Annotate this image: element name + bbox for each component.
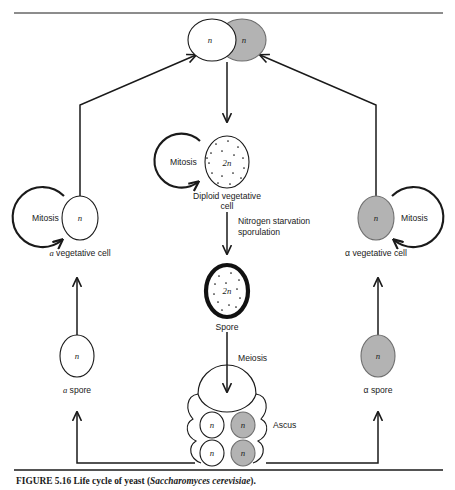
- arrow-ascus-to-a-spore: [77, 412, 195, 463]
- a-spore-caption: a spore: [63, 385, 91, 395]
- a-spore-ploidy-label: n: [75, 351, 80, 361]
- zygote-a-ploidy-label: n: [208, 35, 213, 45]
- figure-caption-species: Saccharomyces cerevisiae: [150, 476, 250, 486]
- node-ascus: n n n n Ascus: [187, 365, 296, 466]
- ascus-caption: Ascus: [273, 420, 296, 430]
- alpha-vegetative-cell-caption: α vegetative cell: [345, 248, 407, 258]
- node-diploid-vegetative-cell: 2n Diploid vegetative cell: [193, 136, 261, 211]
- zygote-alpha-ploidy-label: n: [242, 35, 247, 45]
- a-vegetative-cell-ploidy-label: n: [78, 213, 83, 223]
- diploid-cell-ploidy-label: 2n: [223, 158, 232, 168]
- a-spore-caption-rest: spore: [67, 385, 91, 395]
- diploid-cell-caption-line2: cell: [221, 201, 234, 211]
- a-vegetative-cell-caption-rest: vegetative cell: [54, 248, 111, 258]
- node-a-vegetative-cell: n a vegetative cell: [49, 196, 110, 258]
- alpha-spore-ploidy-label: n: [376, 351, 381, 361]
- diploid-cell-caption-line1: Diploid vegetative: [193, 191, 261, 201]
- figure-caption-number: FIGURE 5.16: [16, 476, 72, 486]
- node-a-spore: n a spore: [60, 335, 94, 395]
- ascus-spore-a-lower-label: n: [210, 448, 215, 458]
- arrow-a-cell-to-zygote: [80, 55, 196, 198]
- arrow-alpha-cell-to-zygote: [260, 55, 376, 198]
- node-alpha-spore: n α spore: [361, 335, 395, 395]
- yeast-life-cycle-diagram: n n 2n: [0, 0, 455, 490]
- mitosis-label-left: Mitosis: [32, 213, 59, 223]
- mitosis-label-right: Mitosis: [401, 213, 428, 223]
- ascus-spore-alpha-upper-label: n: [241, 420, 246, 430]
- figure-caption-tail: ).: [250, 476, 255, 487]
- alpha-vegetative-cell-caption-rest: vegetative cell: [350, 248, 407, 258]
- spore-caption: Spore: [216, 322, 239, 332]
- alpha-vegetative-cell-ploidy-label: n: [374, 213, 379, 223]
- node-zygote: n n: [188, 19, 266, 61]
- figure-caption-lead-text: Life cycle of yeast (: [74, 476, 151, 487]
- alpha-spore-caption-rest: spore: [369, 385, 393, 395]
- figure-page: n n 2n: [0, 0, 455, 490]
- nitrogen-starvation-label-line1: Nitrogen starvation: [238, 216, 310, 226]
- ascus-spore-a-upper-label: n: [210, 420, 215, 430]
- figure-caption: FIGURE 5.16 Life cycle of yeast (Sacchar…: [16, 476, 256, 487]
- spore-ploidy-label: 2n: [223, 286, 232, 296]
- meiosis-label: Meiosis: [238, 353, 267, 363]
- mitosis-label-center: Mitosis: [170, 157, 197, 167]
- nitrogen-starvation-label-line2: sporulation: [238, 227, 280, 237]
- node-spore: 2n Spore: [206, 265, 248, 332]
- node-alpha-vegetative-cell: n α vegetative cell: [345, 196, 407, 258]
- a-vegetative-cell-caption: a vegetative cell: [49, 248, 110, 258]
- ascus-spore-alpha-lower-label: n: [241, 448, 246, 458]
- alpha-spore-caption: α spore: [364, 385, 393, 395]
